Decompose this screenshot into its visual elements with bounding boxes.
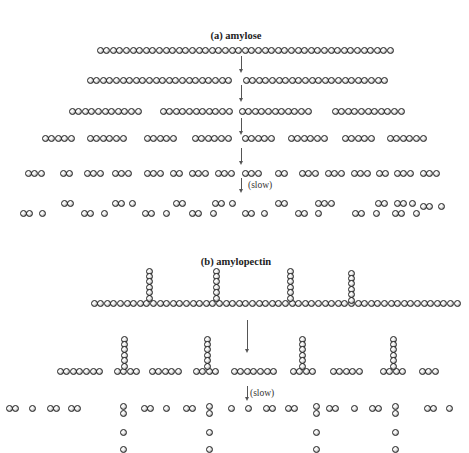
glucose-bead [387,47,394,54]
glucose-bead [302,77,309,84]
glucose-bead [382,170,389,177]
glucose-bead [245,405,252,412]
glucose-bead [120,403,127,410]
glucose-bead [430,405,437,412]
glucose-bead [163,405,170,412]
glucose-bead [261,210,268,217]
glucose-bead [249,300,256,307]
glucose-bead [97,170,104,177]
glucose-bead [392,403,399,410]
glucose-bead [381,300,388,307]
glucose-bead [287,295,294,302]
glucose-bead [332,405,339,412]
glucose-bead [407,170,414,177]
glucose-bead [447,300,454,307]
glucose-bead [157,170,164,177]
glucose-bead [454,300,461,307]
glucose-bead [392,410,399,417]
glucose-bead [183,300,190,307]
glucose-bead [12,405,19,412]
glucose-bead [426,203,433,210]
glucose-bead [313,403,320,410]
glucose-bead [120,410,127,417]
reaction-arrow-icon [241,148,242,162]
glucose-bead [67,200,74,207]
glucose-bead [420,135,427,142]
glucose-bead [248,210,255,217]
glucose-bead [413,135,420,142]
glucose-bead [281,170,288,177]
glucose-bead [313,446,320,453]
reaction-arrow-icon [247,320,248,350]
glucose-bead [218,135,225,142]
glucose-bead [413,210,420,217]
glucose-bead [186,108,193,115]
glucose-bead [301,210,308,217]
glucose-bead [210,210,217,217]
glucose-bead [219,108,226,115]
glucose-bead [83,368,90,375]
glucose-bead [288,47,295,54]
glucose-bead [312,170,319,177]
glucose-bead [133,368,140,375]
glucose-bead [29,405,36,412]
glucose-bead [66,170,73,177]
glucose-bead [375,405,382,412]
glucose-bead [228,170,235,177]
glucose-bead [213,295,220,302]
glucose-bead [175,368,182,375]
glucose-bead [270,368,277,375]
glucose-bead [399,368,406,375]
glucose-bead [391,108,398,115]
glucose-bead [446,405,453,412]
glucose-bead [358,108,365,115]
amylopectin-title: (b) amylopectin [201,256,271,267]
glucose-bead [125,170,132,177]
glucose-bead [128,108,135,115]
glucose-bead [222,47,229,54]
glucose-bead [265,108,272,115]
glucose-bead [170,135,177,142]
glucose-bead [38,170,45,177]
glucose-bead [298,108,305,115]
glucose-bead [189,405,196,412]
glucose-bead [179,200,186,207]
glucose-bead [313,429,320,436]
glucose-bead [281,200,288,207]
glucose-bead [156,47,163,54]
glucose-bead [257,368,264,375]
glucose-bead [179,77,186,84]
glucose-bead [118,200,125,207]
glucose-bead [351,405,358,412]
glucose-bead [26,210,33,217]
glucose-bead [381,77,388,84]
glucose-bead [438,203,445,210]
glucose-bead [96,368,103,375]
glucose-bead [392,446,399,453]
glucose-bead [189,47,196,54]
glucose-bead [120,429,127,436]
glucose-bead [176,170,183,177]
glucose-bead [392,429,399,436]
glucose-bead [338,170,345,177]
glucose-bead [368,77,375,84]
glucose-bead [135,108,142,115]
glucose-bead [309,368,316,375]
glucose-bead [433,170,440,177]
glucose-bead [120,135,127,142]
glucose-bead [400,200,407,207]
reaction-arrow-icon [247,386,248,398]
glucose-bead [87,210,94,217]
glucose-bead [354,47,361,54]
glucose-bead [204,363,211,370]
glucose-bead [202,170,209,177]
amylopectin-slow-label: (slow) [250,388,274,398]
glucose-bead [356,368,363,375]
glucose-bead [315,210,322,217]
glucose-bead [255,170,262,177]
glucose-bead [313,410,320,417]
reaction-arrow-icon [241,118,242,132]
glucose-bead [255,47,262,54]
glucose-bead [291,405,298,412]
